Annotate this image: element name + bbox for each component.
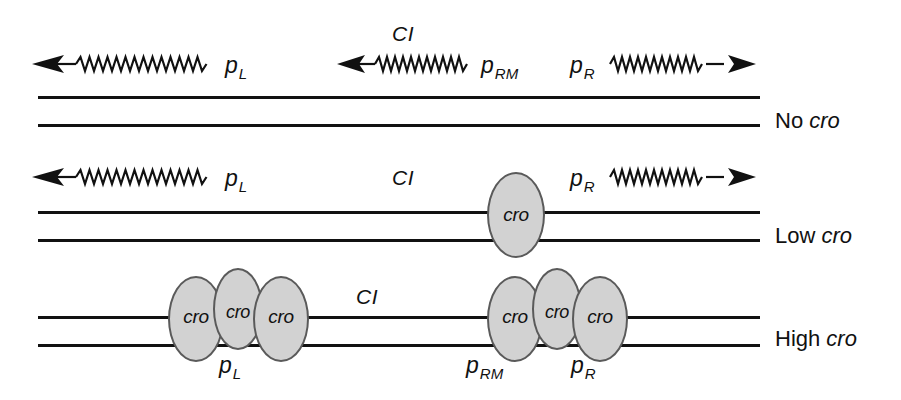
- cro-protein-label: cro: [574, 306, 626, 328]
- pR-transcript-row1: [608, 50, 760, 78]
- cro-protein-right-3: cro: [572, 276, 628, 362]
- ci-label-row1: CI: [392, 22, 414, 46]
- pRM-transcript-row1: [335, 50, 480, 78]
- dna-strand-bottom-row3: [38, 344, 760, 347]
- ci-label-row2: CI: [392, 166, 414, 190]
- pL-label-row3: pL: [219, 352, 240, 379]
- dna-strand-bottom-row2: [38, 239, 760, 242]
- pRM-label-row3: pRM: [466, 352, 502, 379]
- row-label-low-cro: Low cro: [775, 223, 852, 249]
- dna-strand-top-row1: [38, 96, 760, 99]
- row-label-no-cro: No cro: [775, 108, 840, 134]
- row-label-high-cro: High cro: [775, 326, 857, 352]
- cro-occupancy-diagram: CI pL pRM pR No cro: [0, 0, 901, 400]
- pL-transcript-row2: [30, 163, 220, 191]
- dna-strand-top-row3: [38, 316, 760, 319]
- pL-label-row2: pL: [225, 165, 246, 192]
- cro-protein-left-3: cro: [253, 276, 309, 362]
- pR-label-row2: pR: [570, 165, 594, 192]
- cro-protein-pR-row2: cro: [487, 172, 545, 258]
- pL-label-row1: pL: [225, 52, 246, 79]
- cro-protein-label: cro: [255, 306, 307, 328]
- pR-label-row1: pR: [570, 52, 594, 79]
- dna-strand-bottom-row1: [38, 124, 760, 127]
- pR-transcript-row2: [608, 163, 760, 191]
- ci-label-row3: CI: [356, 285, 378, 309]
- cro-protein-label: cro: [489, 204, 543, 226]
- pR-label-row3: pR: [571, 352, 595, 379]
- dna-strand-top-row2: [38, 211, 760, 214]
- pL-transcript-row1: [30, 50, 220, 78]
- pRM-label-row1: pRM: [481, 52, 517, 79]
